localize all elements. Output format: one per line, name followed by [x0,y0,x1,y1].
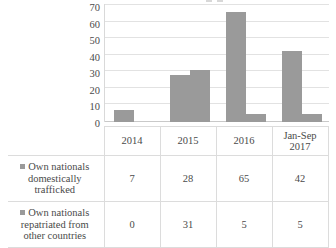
bar-group-2015 [161,4,217,122]
cell-series2-jansep2017: 5 [272,202,328,248]
bar-series1-jansep2017 [282,51,302,122]
table-header-row: 2014 2015 2016 Jan-Sep 2017 [8,127,328,156]
legend-label-series2: Own nationals repatriated from other cou… [21,207,89,241]
y-axis: 70 60 50 40 30 20 10 0 [64,4,100,124]
cell-series1-2015: 28 [160,156,216,202]
header-line-1: Jan-Sep [274,130,327,142]
bar-chart: 70 60 50 40 30 20 10 0 [0,4,336,128]
y-axis-tick: 10 [64,102,100,112]
table-column-header-2014: 2014 [104,127,160,156]
table-row: Own nationals repatriated from other cou… [8,202,328,248]
y-axis-tick: 50 [64,36,100,46]
plot-area [104,4,329,122]
table-corner-cell [8,127,104,156]
table-row: Own nationals domestically trafficked 7 … [8,156,328,202]
bar-group-2016 [217,4,273,122]
table-column-header-2016: 2016 [216,127,272,156]
bar-groups [105,4,329,122]
chart-data-table: 2014 2015 2016 Jan-Sep 2017 Own national… [8,126,329,248]
bar-series1-2014 [114,110,134,122]
y-axis-tick: 70 [64,3,100,13]
bar-group-jansep2017 [273,4,329,122]
cell-series1-jansep2017: 42 [272,156,328,202]
bar-series2-jansep2017 [302,114,322,122]
legend-swatch-icon [20,164,25,169]
table-column-header-2015: 2015 [160,127,216,156]
legend-cell-series1: Own nationals domestically trafficked [8,156,104,202]
legend-swatch-icon [217,0,223,2]
cell-series1-2014: 7 [104,156,160,202]
bar-series1-2015 [170,75,190,122]
legend-cell-series2: Own nationals repatriated from other cou… [8,202,104,248]
table-column-header-jansep2017: Jan-Sep 2017 [272,127,328,156]
y-axis-tick: 20 [64,86,100,96]
cell-series2-2016: 5 [216,202,272,248]
legend-swatch-icon [20,210,25,215]
bar-series1-2016 [226,12,246,122]
bar-series2-2015 [190,70,210,122]
cell-series2-2015: 31 [160,202,216,248]
legend-label-series1: Own nationals domestically trafficked [28,161,89,195]
clipped-legend-inner [96,0,336,3]
legend-swatch-icon [206,0,212,2]
cell-series1-2016: 65 [216,156,272,202]
header-line-2: 2017 [274,141,327,153]
y-axis-tick: 40 [64,53,100,63]
bar-group-2014 [105,4,161,122]
y-axis-tick: 60 [64,20,100,30]
y-axis-tick: 30 [64,69,100,79]
cell-series2-2014: 0 [104,202,160,248]
bar-series2-2016 [246,114,266,122]
